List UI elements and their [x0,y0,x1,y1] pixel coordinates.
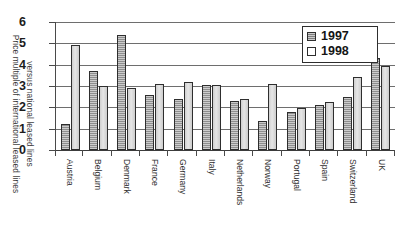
bar-france-1998 [155,84,164,150]
bar-group [84,22,112,150]
x-label-cell: Austria [55,157,83,227]
bar-group [169,22,197,150]
x-axis-label-switzerland: Switzerland [348,159,357,203]
bar-denmark-1998 [127,88,136,150]
y-tick-label-0: 0 [0,144,26,157]
y-tick-label-6: 6 [0,16,26,29]
bar-group [113,22,141,150]
x-tick-boundary [83,150,111,157]
bar-chart: Price multiple of international leased l… [0,0,404,231]
bar-italy-1997 [202,85,211,150]
x-tick-boundary [253,150,281,157]
x-label-cell: France [140,157,168,227]
x-label-cell: Belgium [83,157,111,227]
bar-switzerland-1997 [343,97,352,150]
x-tick-boundary [55,150,83,157]
bar-group [226,22,254,150]
bar-norway-1998 [268,84,277,150]
x-axis-label-france: France [150,159,159,186]
bar-group [254,22,282,150]
x-tick-boundary [140,150,168,157]
x-tick-boundary [168,150,196,157]
bar-spain-1997 [315,105,324,150]
bar-switzerland-1998 [353,77,362,150]
bar-uk-1998 [381,66,390,150]
legend-swatch-1998-icon [307,47,316,56]
bar-netherlands-1997 [230,101,239,150]
bar-austria-1997 [61,124,70,150]
bar-portugal-1997 [287,112,296,150]
x-axis-label-norway: Norway [263,159,272,188]
bar-portugal-1998 [297,108,306,150]
bar-norway-1997 [258,121,267,150]
x-label-cell: Germany [168,157,196,227]
legend-item-1998: 1998 [307,44,373,59]
x-label-cell: Italy [197,157,225,227]
x-axis-label-denmark: Denmark [121,159,130,194]
bar-group [141,22,169,150]
bar-group [197,22,225,150]
y-tick-label-4: 4 [0,59,26,72]
legend-label-1997: 1997 [321,30,349,43]
bar-belgium-1997 [89,71,98,150]
x-axis-label-austria: Austria [65,159,74,186]
bar-spain-1998 [325,102,334,150]
bar-group [56,22,84,150]
x-axis-label-netherlands: Netherlands [235,159,244,205]
legend: 1997 1998 [302,26,378,63]
x-axis-label-portugal: Portugal [291,159,300,191]
x-label-cell: UK [367,157,395,227]
x-axis-label-belgium: Belgium [93,159,102,190]
x-label-cell: Norway [253,157,281,227]
bar-germany-1998 [184,82,193,150]
bar-uk-1997 [371,58,380,150]
x-tick-boundary [225,150,253,157]
legend-swatch-1997-icon [307,32,316,41]
x-axis-label-spain: Spain [320,159,329,181]
bar-france-1997 [145,95,154,150]
bar-italy-1998 [212,85,221,150]
bar-netherlands-1998 [240,99,249,150]
x-tick-boundary [197,150,225,157]
x-tick-boundary [112,150,140,157]
y-tick-label-2: 2 [0,101,26,114]
x-axis-labels: AustriaBelgiumDenmarkFranceGermanyItalyN… [55,157,395,227]
x-label-cell: Portugal [282,157,310,227]
y-tick-label-1: 1 [0,123,26,136]
x-tick-boundary [367,150,395,157]
bar-belgium-1998 [99,86,108,150]
x-label-cell: Denmark [112,157,140,227]
legend-item-1997: 1997 [307,29,373,44]
y-tick-label-3: 3 [0,80,26,93]
x-tick-boundary [310,150,338,157]
bar-germany-1997 [174,99,183,150]
x-axis-tick-marks [55,150,395,157]
y-tick-label-5: 5 [0,37,26,50]
bar-austria-1998 [71,45,80,150]
x-tick-boundary [338,150,366,157]
x-label-cell: Spain [310,157,338,227]
x-label-cell: Switzerland [338,157,366,227]
x-label-cell: Netherlands [225,157,253,227]
x-axis-label-italy: Italy [206,159,215,175]
x-axis-label-uk: UK [376,159,385,171]
x-tick-boundary [282,150,310,157]
x-axis-label-germany: Germany [178,159,187,194]
bar-denmark-1997 [117,35,126,150]
legend-label-1998: 1998 [321,45,349,58]
